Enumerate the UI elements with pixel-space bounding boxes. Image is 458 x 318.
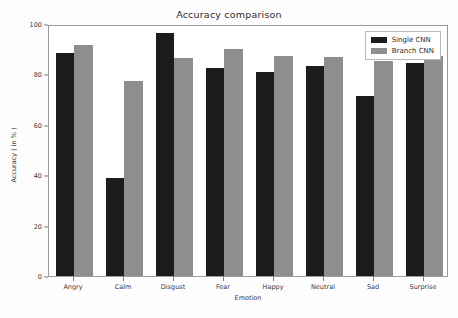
bar-branch-cnn-fear [224,49,243,276]
x-axis-tick-label: Calm [115,283,132,291]
legend-swatch-icon-branch-cnn [371,48,387,54]
x-axis-tick-mark [173,277,174,281]
bar-group [99,26,149,276]
x-axis-tick-label: Fear [216,283,230,291]
bar-single-cnn-calm [106,178,125,276]
x-axis-tick-label: Sad [367,283,379,291]
bar-branch-cnn-surprise [424,56,443,277]
bar-single-cnn-happy [256,72,275,276]
bar-single-cnn-angry [56,53,75,276]
bar-branch-cnn-disgust [174,58,193,276]
plot-area: Single CNN Branch CNN [48,25,448,277]
bar-group [299,26,349,276]
x-axis-tick-label: Happy [263,283,284,291]
y-axis-tick-label: 40 [34,172,42,180]
bar-group [149,26,199,276]
bar-branch-cnn-calm [124,81,143,276]
y-axis-tick-label: 100 [30,21,42,29]
x-axis-tick-mark [73,277,74,281]
chart-figure: Accuracy comparison Accuracy ( in % ) 02… [0,0,458,318]
bar-single-cnn-disgust [156,33,175,276]
x-axis-tick-mark [273,277,274,281]
x-axis-tick-mark [423,277,424,281]
bar-single-cnn-fear [206,68,225,276]
bar-group [249,26,299,276]
bar-branch-cnn-angry [74,45,93,276]
x-axis-tick-mark [323,277,324,281]
legend-label-branch-cnn: Branch CNN [392,47,434,55]
bar-group [349,26,399,276]
bar-single-cnn-sad [356,96,375,276]
x-axis-tick-mark [123,277,124,281]
x-axis-tick-label: Neutral [311,283,335,291]
y-axis: Accuracy ( in % ) 020406080100 [0,25,48,277]
x-axis-tick-mark [223,277,224,281]
legend-swatch-icon-single-cnn [371,37,387,43]
legend-label-single-cnn: Single CNN [392,36,431,44]
bar-single-cnn-neutral [306,66,325,276]
chart-title: Accuracy comparison [0,9,458,20]
bar-group [399,26,449,276]
x-axis-label: Emotion [48,294,448,302]
bar-branch-cnn-neutral [324,57,343,276]
bar-branch-cnn-happy [274,56,293,277]
x-axis-tick-mark [373,277,374,281]
y-axis-tick-label: 80 [34,71,42,79]
x-axis: Emotion AngryCalmDisgustFearHappyNeutral… [48,277,448,317]
x-axis-tick-label: Surprise [410,283,437,291]
x-axis-tick-label: Angry [63,283,82,291]
bars-layer [49,26,447,276]
bar-single-cnn-surprise [406,63,425,276]
y-axis-tick-label: 20 [34,223,42,231]
y-axis-label: Accuracy ( in % ) [10,105,18,205]
bar-branch-cnn-sad [374,61,393,276]
x-axis-tick-label: Disgust [161,283,185,291]
y-axis-tick-label: 0 [38,273,42,281]
bar-group [49,26,99,276]
bar-group [199,26,249,276]
y-axis-tick-label: 60 [34,122,42,130]
legend-item-single-cnn: Single CNN [371,36,434,44]
chart-legend: Single CNN Branch CNN [365,31,441,60]
legend-item-branch-cnn: Branch CNN [371,47,434,55]
